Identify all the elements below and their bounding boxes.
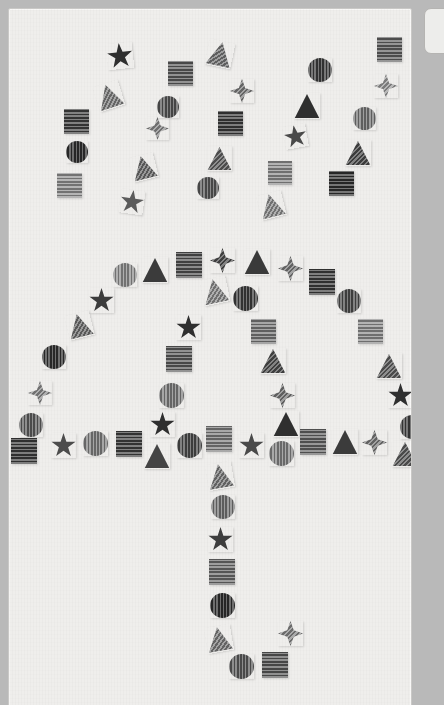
shape-st4-canopy: [270, 383, 295, 408]
shape-tr-rim: [144, 443, 170, 469]
shape-st4-rain: [230, 79, 254, 103]
shape-st-canopy: [176, 315, 201, 340]
shape-tr-canopy: [273, 411, 299, 437]
shape-fill: [64, 310, 94, 340]
shape-ci-handle: [210, 593, 235, 618]
shape-st4-rim: [362, 430, 387, 455]
shape-fill: [388, 383, 412, 408]
shape-fill: [239, 433, 264, 458]
shape-ci-rim: [177, 433, 202, 458]
shape-fill: [345, 140, 371, 166]
shape-ci-canopy: [42, 345, 66, 369]
shape-fill: [159, 383, 184, 408]
shape-fill: [233, 286, 258, 311]
shape-fill: [278, 621, 303, 646]
shape-fill: [294, 93, 320, 119]
shape-st-canopy: [89, 288, 114, 313]
shape-sq-canopy: [358, 319, 383, 344]
shape-st4-rain: [374, 74, 398, 98]
shape-tr-handle: [205, 461, 235, 491]
shape-st-canopy: [388, 383, 412, 408]
shape-ci-canopy: [337, 289, 361, 313]
shape-fill: [376, 353, 402, 379]
shape-fill: [353, 107, 376, 130]
shape-sq-rain: [57, 173, 82, 198]
shape-ci-rain: [197, 177, 219, 199]
shape-layer: [9, 9, 411, 705]
shape-st4-canopy: [28, 381, 52, 405]
shape-tr-canopy: [376, 353, 402, 379]
shape-fill: [176, 252, 202, 278]
shape-sq-handle: [209, 559, 235, 585]
shape-fill: [278, 256, 303, 281]
shape-tr-canopy: [244, 249, 270, 275]
shape-st4-rain: [146, 117, 169, 140]
shape-fill: [118, 188, 145, 215]
side-panel-sliver[interactable]: [424, 8, 444, 54]
shape-ci-rain: [66, 141, 88, 163]
shape-fill: [116, 431, 142, 457]
shape-ci-canopy: [400, 415, 412, 439]
shape-st-rain: [118, 188, 145, 215]
shape-fill: [210, 593, 235, 618]
shape-ci-canopy: [19, 413, 43, 437]
shape-fill: [146, 117, 169, 140]
shape-fill: [113, 263, 137, 287]
shape-fill: [204, 624, 234, 654]
shape-sq-rim: [300, 429, 326, 455]
shape-tr-handle: [204, 624, 234, 654]
shape-sq-rain: [329, 171, 354, 196]
shape-tr-rain: [294, 93, 320, 119]
shape-st-canopy: [150, 412, 175, 437]
shape-tr-canopy: [142, 257, 168, 283]
shape-fill: [270, 383, 295, 408]
shape-fill: [205, 39, 236, 70]
shape-fill: [362, 430, 387, 455]
shape-fill: [197, 177, 219, 199]
shape-ci-rim: [83, 431, 108, 456]
shape-st4-handle: [278, 621, 303, 646]
shape-tr-rain: [93, 80, 126, 113]
shape-ci-handle: [211, 495, 235, 519]
shape-fill: [176, 315, 201, 340]
shape-fill: [211, 495, 235, 519]
shape-fill: [166, 346, 192, 372]
shape-ci-canopy: [159, 383, 184, 408]
shape-fill: [150, 412, 175, 437]
shape-ci-handle: [229, 654, 254, 679]
shape-tr-rain: [128, 152, 158, 182]
shape-st-rim: [51, 433, 76, 458]
shape-tr-rain: [205, 39, 236, 70]
screenshot-root: [0, 0, 444, 705]
shape-fill: [244, 249, 270, 275]
shape-sq-canopy: [309, 269, 335, 295]
shape-ci-rain: [353, 107, 376, 130]
shape-fill: [66, 141, 88, 163]
shape-fill: [19, 413, 43, 437]
shape-fill: [262, 652, 288, 678]
shape-st-handle: [208, 527, 233, 552]
shape-sq-rim: [206, 426, 232, 452]
shape-sq-canopy: [251, 319, 276, 344]
shape-ci-rain: [308, 58, 332, 82]
shape-fill: [207, 146, 232, 171]
shape-sq-canopy: [176, 252, 202, 278]
shape-fill: [392, 441, 412, 467]
shape-sq-rain: [64, 109, 89, 134]
shape-fill: [93, 80, 126, 113]
shape-tr-rim: [332, 429, 358, 455]
shape-fill: [268, 161, 292, 185]
shape-fill: [177, 433, 202, 458]
shape-fill: [168, 61, 193, 86]
shape-sq-rim: [11, 438, 37, 464]
shape-fill: [230, 79, 254, 103]
shape-tr-canopy: [64, 310, 94, 340]
shape-fill: [273, 411, 299, 437]
shape-fill: [106, 42, 135, 71]
shape-fill: [89, 288, 114, 313]
shape-fill: [57, 173, 82, 198]
shape-sq-rain: [218, 111, 243, 136]
shape-tr-rain: [345, 140, 371, 166]
shape-fill: [300, 429, 326, 455]
shape-fill: [205, 461, 235, 491]
